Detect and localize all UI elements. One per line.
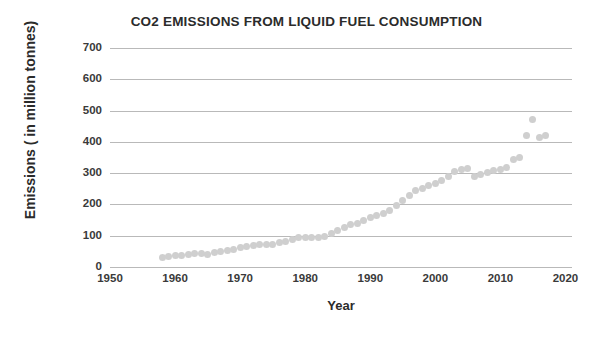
y-tick-label: 600 <box>62 73 102 85</box>
x-tick-label: 1980 <box>282 272 328 284</box>
x-axis-label: Year <box>110 298 572 313</box>
x-tick-label: 2000 <box>412 272 458 284</box>
y-tick-label: 0 <box>62 261 102 273</box>
x-tick-label: 1990 <box>347 272 393 284</box>
x-tick-label: 1970 <box>217 272 263 284</box>
x-tick-label: 1950 <box>87 272 133 284</box>
y-tick-labels: 0100200300400500600700 <box>0 48 613 278</box>
y-tick-label: 100 <box>62 230 102 242</box>
x-tick-label: 2020 <box>542 272 588 284</box>
chart-figure: CO2 EMISSIONS FROM LIQUID FUEL CONSUMPTI… <box>0 0 613 339</box>
y-tick-label: 400 <box>62 136 102 148</box>
x-tick-label: 1960 <box>152 272 198 284</box>
x-tick-label: 2010 <box>477 272 523 284</box>
y-tick-label: 300 <box>62 167 102 179</box>
x-tick-labels: 19501960197019801990200020102020 <box>0 272 613 292</box>
y-tick-label: 500 <box>62 105 102 117</box>
chart-title: CO2 EMISSIONS FROM LIQUID FUEL CONSUMPTI… <box>0 14 613 29</box>
y-tick-label: 700 <box>62 42 102 54</box>
y-tick-label: 200 <box>62 198 102 210</box>
